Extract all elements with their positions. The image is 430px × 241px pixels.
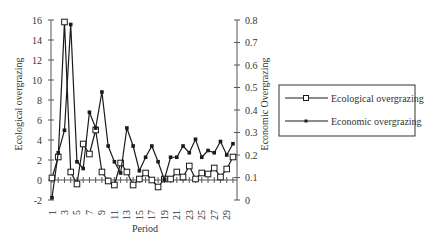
data-point	[130, 182, 136, 188]
legend-label-economic: Economic overgrazing	[331, 116, 422, 127]
data-point	[69, 23, 73, 27]
data-point	[156, 160, 160, 164]
data-point	[187, 151, 191, 155]
x-tick-label: 23	[184, 210, 195, 220]
data-point	[131, 144, 135, 148]
data-point	[149, 177, 155, 183]
data-point	[225, 153, 229, 157]
data-point	[150, 144, 154, 148]
data-point	[75, 160, 79, 164]
data-point	[74, 181, 80, 187]
x-tick-label: 9	[96, 210, 107, 215]
data-point	[62, 19, 68, 25]
right-tick-label: 0.3	[245, 127, 258, 138]
left-tick-label: 16	[32, 15, 42, 26]
left-tick-label: 8	[37, 95, 42, 106]
right-tick-label: 0.1	[245, 172, 258, 183]
data-point	[143, 170, 149, 176]
data-point	[81, 167, 85, 171]
left-tick-label: 0	[37, 175, 42, 186]
right-tick-label: 0.2	[245, 150, 258, 161]
data-point	[211, 165, 217, 171]
left-tick-label: 4	[37, 135, 42, 146]
data-point	[180, 174, 186, 180]
right-tick-label: 0.4	[245, 105, 258, 116]
data-point	[218, 174, 224, 180]
data-point	[193, 176, 199, 182]
x-tick-label: 25	[196, 210, 207, 220]
right-tick-label: 0.5	[245, 82, 258, 93]
data-point	[106, 144, 110, 148]
left-tick-label: 6	[37, 115, 42, 126]
x-axis-title: Period	[132, 223, 158, 234]
right-tick-label: 0.6	[245, 60, 258, 71]
data-point	[138, 169, 142, 173]
data-point	[124, 169, 130, 175]
data-point	[174, 169, 180, 175]
left-tick-label: 2	[37, 155, 42, 166]
data-point	[206, 149, 210, 153]
data-point	[119, 171, 123, 175]
x-tick-label: 17	[146, 210, 157, 220]
right-tick-label: 0.7	[245, 37, 258, 48]
data-point	[200, 155, 204, 159]
data-point	[169, 155, 173, 159]
x-tick-label: 13	[121, 210, 132, 220]
data-point	[50, 196, 54, 200]
data-point	[137, 176, 143, 182]
left-tick-label: -2	[34, 195, 42, 206]
x-tick-label: 19	[159, 210, 170, 220]
left-tick-label: 12	[32, 55, 42, 66]
data-point	[186, 163, 192, 169]
data-point	[175, 155, 179, 159]
legend: Ecological overgrazing Economic overgraz…	[279, 85, 424, 136]
data-point	[199, 170, 205, 176]
data-point	[56, 151, 60, 155]
legend-label-ecological: Ecological overgrazing	[331, 93, 424, 104]
data-point	[219, 140, 223, 144]
data-point	[68, 169, 74, 175]
data-point	[205, 171, 211, 177]
x-tick-label: 5	[71, 210, 82, 215]
right-tick-label: 0.8	[245, 15, 258, 26]
data-point	[144, 155, 148, 159]
x-tick-label: 7	[84, 210, 95, 215]
data-point	[87, 151, 93, 157]
series-layer	[49, 19, 236, 199]
data-point	[181, 144, 185, 148]
x-tick-label: 11	[109, 210, 120, 220]
x-tick-label: 1	[47, 210, 58, 215]
x-tick-label: 15	[134, 210, 145, 220]
y-axis-title-left: Ecological overgrazing	[13, 58, 24, 151]
filled-square-marker-icon	[305, 120, 308, 123]
x-tick-label: 3	[59, 210, 70, 215]
data-point	[113, 160, 117, 164]
data-point	[168, 176, 174, 182]
data-point	[100, 90, 104, 94]
x-tick-label: 27	[209, 210, 220, 220]
overgrazing-chart: -20246810121416 00.10.20.30.40.50.60.70.…	[0, 0, 430, 241]
data-point	[112, 182, 118, 188]
data-point	[212, 151, 216, 155]
data-point	[194, 137, 198, 141]
data-point	[231, 142, 235, 146]
left-tick-label: 10	[32, 75, 42, 86]
left-tick-label: 14	[32, 35, 42, 46]
data-point	[230, 154, 236, 160]
data-point	[163, 178, 167, 182]
y-axis-title-right: Economic Overgrazing	[259, 58, 270, 151]
x-tick-label: 21	[171, 210, 182, 220]
open-square-marker-icon	[304, 96, 309, 101]
data-point	[63, 128, 67, 132]
data-point	[94, 126, 98, 130]
data-point	[125, 126, 129, 130]
data-point	[155, 184, 161, 190]
right-tick-label: 0	[245, 195, 250, 206]
right-y-axis: 00.10.20.30.40.50.60.70.8	[234, 15, 258, 206]
data-point	[88, 110, 92, 114]
x-tick-label: 29	[221, 210, 232, 220]
data-point	[99, 169, 105, 175]
data-point	[224, 166, 230, 172]
data-point	[105, 178, 111, 184]
